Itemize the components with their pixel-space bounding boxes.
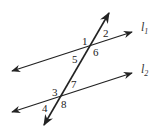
label-l2: l2 — [141, 62, 148, 78]
angle-5-label: 5 — [72, 53, 78, 65]
label-l1: l1 — [141, 20, 148, 36]
transversal — [44, 13, 109, 125]
angle-3-label: 3 — [52, 86, 58, 98]
line-l1 — [12, 32, 132, 71]
angle-1-label: 1 — [82, 35, 88, 47]
angle-2-label: 2 — [103, 27, 109, 39]
angle-4-label: 4 — [42, 102, 48, 114]
angle-7-label: 7 — [71, 78, 77, 90]
angle-8-label: 8 — [61, 98, 67, 110]
parallel-lines-diagram: l1 l2 1 2 5 6 3 7 4 8 — [0, 0, 157, 131]
angle-6-label: 6 — [93, 46, 99, 58]
